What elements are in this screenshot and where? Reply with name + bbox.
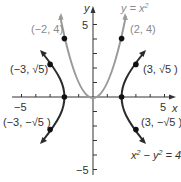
label-2-4: (2, 4) xyxy=(130,23,156,35)
vertex-right xyxy=(119,94,125,100)
label-3-negsqrt5: (3, −√5 ) xyxy=(141,116,181,128)
point-3-negsqrt5 xyxy=(133,127,139,133)
graph-canvas: y x 5 −5 −5 5 y = x2 (−2, 4) (2, 4) (−3,… xyxy=(0,0,181,182)
hyperbola-equation: x2 − y2 = 4 xyxy=(130,149,181,161)
label-neg3-negsqrt5: (−3, −√5 ) xyxy=(3,116,51,128)
vertex-left xyxy=(62,94,68,100)
y-tick-label-neg5: −5 xyxy=(76,164,89,176)
x-tick-label-neg5: −5 xyxy=(14,101,27,113)
point-2-4 xyxy=(119,36,125,42)
x-axis-label: x xyxy=(171,102,178,114)
point-neg2-4 xyxy=(62,36,68,42)
parabola-equation: y = x2 xyxy=(120,2,149,14)
parabola-arrow-right-icon xyxy=(123,13,129,20)
y-tick-label-5: 5 xyxy=(82,19,88,31)
label-neg2-4: (−2, 4) xyxy=(31,23,63,35)
label-3-sqrt5: (3, √5 ) xyxy=(143,63,178,75)
y-axis-arrow-icon xyxy=(91,6,96,13)
parabola-arrow-left-icon xyxy=(58,13,64,20)
point-3-sqrt5 xyxy=(133,62,139,68)
y-axis-label: y xyxy=(83,2,91,14)
x-axis-arrow-icon xyxy=(169,95,176,100)
label-neg3-sqrt5: (−3, √5) xyxy=(10,63,48,75)
x-tick-label-5: 5 xyxy=(160,101,166,113)
